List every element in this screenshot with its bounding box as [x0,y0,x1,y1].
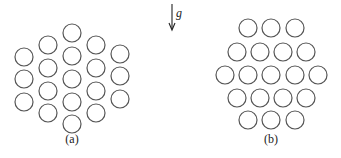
particle-circle [239,66,257,84]
particle-circle [262,66,280,84]
particle-circle [251,89,269,107]
particle-circle [228,43,246,61]
particle-circle [228,89,246,107]
particle-circle [15,93,33,111]
particle-circle [15,48,33,66]
gravity-arrow-icon [169,4,175,30]
particle-circle [63,70,81,88]
particle-circle [87,36,105,54]
particle-circle [39,104,57,122]
particle-circle [286,66,304,84]
particle-circle [15,70,33,88]
panel-a-circles [15,24,129,133]
panel-a-label: (a) [65,132,78,146]
particle-circle [111,45,129,63]
particle-circle [286,111,304,129]
particle-circle [63,24,81,42]
particle-circle [251,43,269,61]
gravity-label: g [176,6,182,20]
figure-canvas: g (a) (b) [0,0,341,158]
panel-b-label: (b) [264,132,278,146]
particle-circle [63,93,81,111]
particle-circle [111,90,129,108]
particle-circle [286,19,304,37]
particle-circle [63,115,81,133]
particle-circle [239,111,257,129]
particle-circle [111,67,129,85]
particle-circle [274,89,292,107]
particle-circle [87,82,105,100]
particle-circle [262,111,280,129]
particle-circle [39,59,57,77]
particle-circle [297,43,315,61]
particle-circle [274,43,292,61]
particle-circle [309,66,327,84]
particle-circle [216,66,234,84]
panel-b-circles [216,19,327,129]
particle-circle [262,19,280,37]
particle-circle [39,36,57,54]
particle-circle [87,59,105,77]
particle-circle [239,19,257,37]
particle-circle [63,47,81,65]
particle-circle [39,82,57,100]
particle-circle [297,89,315,107]
particle-circle [87,104,105,122]
